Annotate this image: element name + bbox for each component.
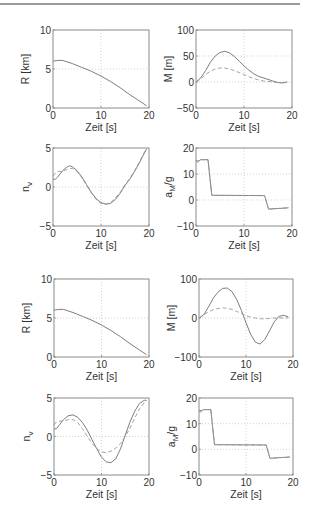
y-tick-label: −100 xyxy=(174,352,197,363)
y-tick-label: 10 xyxy=(41,274,53,285)
x-tick-label: 10 xyxy=(240,477,252,488)
subplot-M1: 01020−50050100Zeit [s]M [m] xyxy=(162,25,298,133)
x-tick-label: 0 xyxy=(50,110,56,121)
y-tick-label: 10 xyxy=(183,169,195,180)
x-tick-label: 20 xyxy=(286,110,298,121)
y-tick-label: 0 xyxy=(188,77,194,88)
series-solid xyxy=(196,160,289,209)
subplot-aM2: 01020−1001020Zeit [s]aM/g xyxy=(165,393,299,500)
y-tick-label: 5 xyxy=(45,64,51,75)
x-tick-label: 0 xyxy=(193,110,199,121)
x-tick-label: 0 xyxy=(51,477,57,488)
series-solid xyxy=(54,309,147,354)
x-axis-label: Zeit [s] xyxy=(86,488,118,500)
y-tick-label: 0 xyxy=(46,432,52,443)
series-solid xyxy=(54,400,147,462)
x-axis-label: Zeit [s] xyxy=(85,121,117,133)
series-dashed xyxy=(199,410,290,459)
x-tick-label: 20 xyxy=(286,228,298,239)
y-tick-label: 100 xyxy=(180,274,197,285)
y-tick-label: 100 xyxy=(177,25,194,36)
x-tick-label: 20 xyxy=(287,359,299,370)
y-axis-label: nv xyxy=(20,432,35,442)
subplot-R1: 010200510Zeit [s]R [km] xyxy=(19,25,155,133)
x-tick-label: 20 xyxy=(287,477,299,488)
x-axis-label: Zeit [s] xyxy=(230,370,262,382)
subplot-aM1: 01020−1001020Zeit [s]aM/g xyxy=(162,143,298,251)
x-tick-label: 10 xyxy=(240,359,252,370)
y-tick-label: 5 xyxy=(46,313,52,324)
series-dashed xyxy=(196,68,287,83)
y-tick-label: −5 xyxy=(40,221,52,232)
y-axis-label: nv xyxy=(19,182,34,192)
series-solid xyxy=(199,410,290,459)
series-dashed xyxy=(196,160,289,209)
x-axis-label: Zeit [s] xyxy=(228,121,260,133)
x-tick-label: 10 xyxy=(96,477,108,488)
subplot-M2: 01020−1000100Zeit [s]M [m] xyxy=(165,274,299,382)
x-tick-label: 10 xyxy=(95,228,107,239)
x-tick-label: 0 xyxy=(50,228,56,239)
x-tick-label: 10 xyxy=(238,228,250,239)
x-tick-label: 0 xyxy=(196,359,202,370)
y-tick-label: 0 xyxy=(191,444,197,455)
y-axis-label: aM/g xyxy=(165,426,180,447)
subplot-nv1: 01020−505Zeit [s]nv xyxy=(19,143,155,251)
y-axis-label: R [km] xyxy=(19,54,31,84)
x-axis-label: Zeit [s] xyxy=(230,488,262,500)
y-tick-label: 0 xyxy=(45,182,51,193)
series-solid xyxy=(53,60,147,105)
y-tick-label: 5 xyxy=(46,393,52,404)
y-tick-label: −10 xyxy=(177,221,194,232)
y-tick-label: 0 xyxy=(46,352,52,363)
series-dashed xyxy=(53,149,147,204)
y-tick-label: −5 xyxy=(41,470,53,481)
x-tick-label: 0 xyxy=(51,359,57,370)
x-axis-label: Zeit [s] xyxy=(85,239,117,251)
x-tick-label: 0 xyxy=(196,477,202,488)
y-tick-label: −50 xyxy=(177,103,194,114)
y-axis-label: aM/g xyxy=(162,176,177,197)
y-axis-label: R [km] xyxy=(20,303,32,333)
subplot-nv2: 01020−505Zeit [s]nv xyxy=(20,393,155,500)
y-axis-label: M [m] xyxy=(165,305,177,331)
x-axis-label: Zeit [s] xyxy=(228,239,260,251)
y-tick-label: 0 xyxy=(188,195,194,206)
y-tick-label: 0 xyxy=(45,103,51,114)
axes-box xyxy=(199,398,293,475)
y-tick-label: 0 xyxy=(191,313,197,324)
x-tick-label: 20 xyxy=(143,110,155,121)
x-tick-label: 0 xyxy=(193,228,199,239)
x-tick-label: 20 xyxy=(143,477,155,488)
y-tick-label: 50 xyxy=(183,51,195,62)
y-tick-label: 20 xyxy=(183,143,195,154)
subplot-R2: 010200510Zeit [s]R [km] xyxy=(20,274,155,382)
series-solid xyxy=(53,149,147,204)
x-tick-label: 20 xyxy=(143,228,155,239)
x-tick-label: 20 xyxy=(143,359,155,370)
axes-box xyxy=(54,398,149,475)
y-tick-label: 20 xyxy=(186,393,198,404)
y-tick-label: 5 xyxy=(45,143,51,154)
y-tick-label: −10 xyxy=(180,470,197,481)
x-tick-label: 10 xyxy=(238,110,250,121)
series-solid xyxy=(199,288,288,344)
x-tick-label: 10 xyxy=(95,110,107,121)
y-tick-label: 10 xyxy=(186,419,198,430)
y-axis-label: M [m] xyxy=(162,56,174,82)
x-axis-label: Zeit [s] xyxy=(86,370,118,382)
x-tick-label: 10 xyxy=(96,359,108,370)
series-dashed xyxy=(54,401,147,453)
y-tick-label: 10 xyxy=(40,25,52,36)
figure-canvas: 010200510Zeit [s]R [km]01020−50050100Zei… xyxy=(0,0,312,514)
